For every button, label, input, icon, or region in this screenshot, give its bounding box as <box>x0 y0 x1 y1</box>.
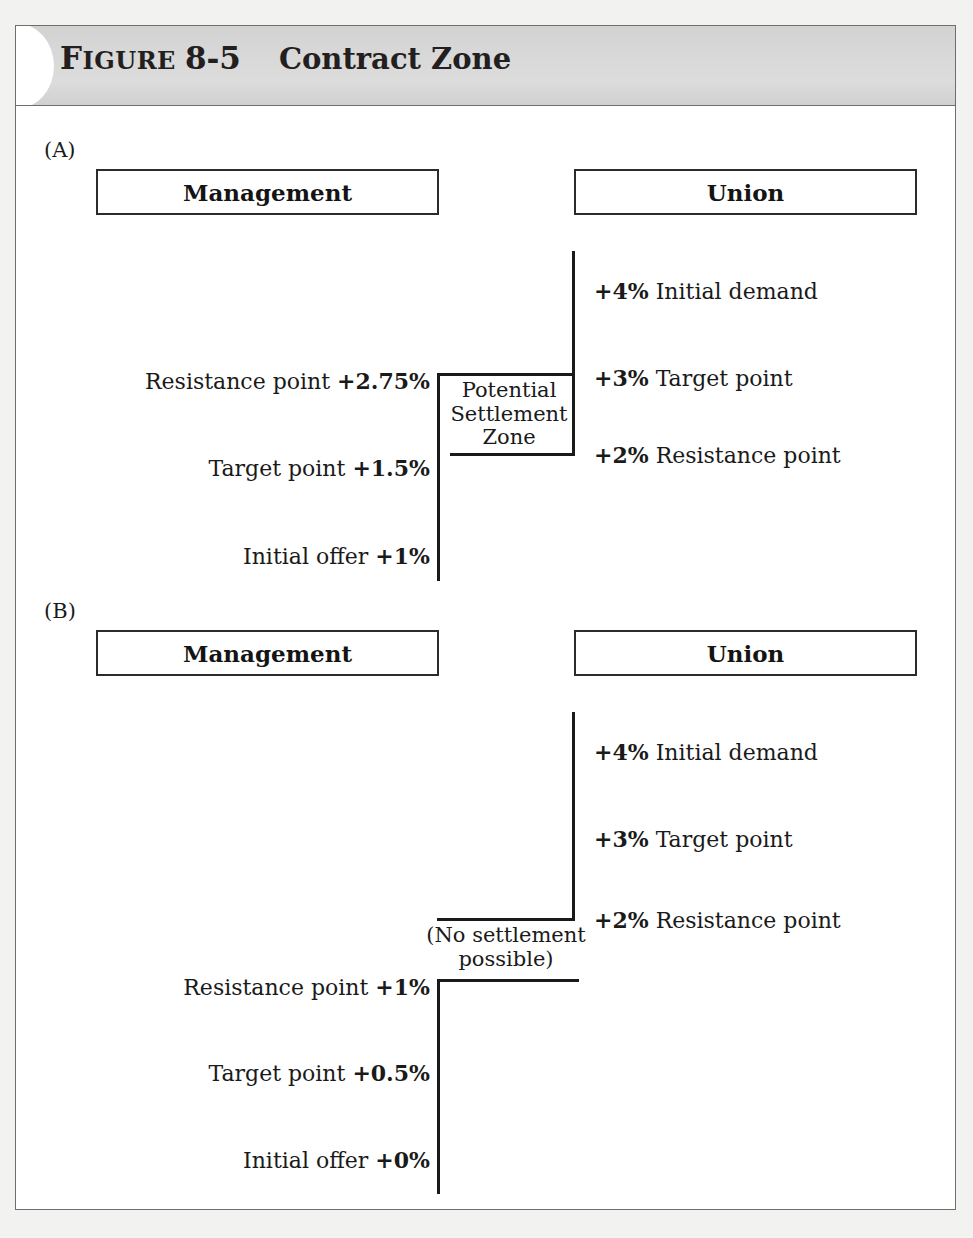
header-notch-decoration <box>16 26 54 106</box>
panel-a-union-point-1-name: Target point <box>656 366 793 391</box>
panel-b-union-axis <box>572 712 575 921</box>
panel-a-union-point-2-value: +2% <box>594 442 649 468</box>
panel-a-union-point-0: +4% Initial demand <box>594 280 818 303</box>
panel-b-management-axis <box>437 979 440 1194</box>
panel-a-union-point-0-value: +4% <box>594 278 649 304</box>
panel-b-union-point-1-name: Target point <box>656 827 793 852</box>
panel-b-management-point-0-name: Resistance point <box>183 975 368 1000</box>
panel-b-management-point-1-value: +0.5% <box>352 1060 430 1086</box>
panel-a-management-point-1: Target point +1.5% <box>208 457 430 480</box>
panel-b-label: (B) <box>44 599 76 623</box>
panel-a-settlement-zone-annotation: Potential Settlement Zone <box>443 379 575 450</box>
panel-b-management-point-2-value: +0% <box>375 1147 430 1173</box>
panel-a-management-point-0: Resistance point +2.75% <box>145 370 430 393</box>
panel-a-settlement-zone-bottom-rule <box>450 453 575 456</box>
panel-b-management-point-0-value: +1% <box>375 974 430 1000</box>
panel-a-management-point-1-value: +1.5% <box>352 455 430 481</box>
figure-kicker: FIGURE <box>60 40 176 76</box>
panel-a-union-point-0-name: Initial demand <box>656 279 818 304</box>
panel-a-union-point-2: +2% Resistance point <box>594 444 841 467</box>
figure-title: Contract Zone <box>279 42 511 76</box>
panel-b-no-settlement-annotation: (No settlement possible) <box>416 924 596 971</box>
panel-b-union-foot <box>437 918 575 921</box>
panel-a-union-point-1-value: +3% <box>594 365 649 391</box>
panel-b-management-point-1: Target point +0.5% <box>208 1062 430 1085</box>
panel-a-management-box: Management <box>96 169 439 215</box>
panel-a-management-box-label: Management <box>183 179 352 206</box>
panel-b-management-point-0: Resistance point +1% <box>183 976 430 999</box>
no-settlement-line-1: (No settlement <box>416 924 596 948</box>
panel-b-management-point-2: Initial offer +0% <box>243 1149 430 1172</box>
panel-a-union-point-2-name: Resistance point <box>656 443 841 468</box>
panel-b-union-box-label: Union <box>707 640 785 667</box>
panel-a-management-point-2: Initial offer +1% <box>243 545 430 568</box>
panel-b-union-point-2-name: Resistance point <box>656 908 841 933</box>
panel-a-management-point-2-name: Initial offer <box>243 544 368 569</box>
figure-header-text: FIGURE 8-5 Contract Zone <box>60 40 511 76</box>
figure-header-banner: FIGURE 8-5 Contract Zone <box>16 26 955 106</box>
panel-b-union-point-0: +4% Initial demand <box>594 741 818 764</box>
panel-a-management-point-0-name: Resistance point <box>145 369 330 394</box>
panel-b-union-point-0-value: +4% <box>594 739 649 765</box>
figure-number: 8-5 <box>185 40 241 76</box>
figure-kicker-cap: F <box>60 40 83 76</box>
panel-a-management-arm-top <box>437 373 575 376</box>
panel-b-management-box: Management <box>96 630 439 676</box>
panel-b-management-point-2-name: Initial offer <box>243 1148 368 1173</box>
panel-b-union-point-0-name: Initial demand <box>656 740 818 765</box>
panel-a-union-point-1: +3% Target point <box>594 367 793 390</box>
panel-a-management-point-1-name: Target point <box>208 456 345 481</box>
panel-b-union-point-2-value: +2% <box>594 907 649 933</box>
panel-b-management-point-1-name: Target point <box>208 1061 345 1086</box>
panel-a-union-box-label: Union <box>707 179 785 206</box>
panel-b-union-point-1: +3% Target point <box>594 828 793 851</box>
panel-b-management-arm-top <box>437 979 579 982</box>
no-settlement-line-2: possible) <box>416 948 596 972</box>
figure-frame: FIGURE 8-5 Contract Zone (A) Management … <box>15 25 956 1210</box>
panel-a-label: (A) <box>44 138 76 162</box>
panel-b-union-point-2: +2% Resistance point <box>594 909 841 932</box>
panel-b-union-point-1-value: +3% <box>594 826 649 852</box>
settlement-zone-line-1: Potential <box>443 379 575 403</box>
figure-kicker-smallcaps: IGURE <box>83 46 176 75</box>
settlement-zone-line-2: Settlement <box>443 403 575 427</box>
settlement-zone-line-3: Zone <box>443 426 575 450</box>
panel-a-management-point-0-value: +2.75% <box>337 368 430 394</box>
panel-b-union-box: Union <box>574 630 917 676</box>
panel-a-union-box: Union <box>574 169 917 215</box>
panel-a-management-point-2-value: +1% <box>375 543 430 569</box>
panel-b-management-box-label: Management <box>183 640 352 667</box>
panel-a-management-axis <box>437 373 440 581</box>
